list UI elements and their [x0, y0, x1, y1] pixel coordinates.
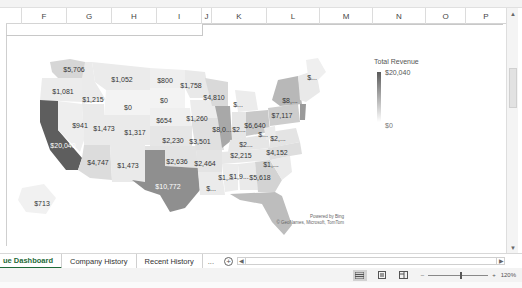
state-label-me: $... — [307, 74, 317, 81]
state-label-wy: $0 — [124, 104, 132, 111]
legend-min-value: $0 — [385, 122, 393, 129]
legend-gradient-bar — [377, 72, 381, 122]
state-label-sc: $1,... — [263, 161, 279, 168]
legend-max-value: $20,040 — [385, 69, 410, 76]
state-label-pa: $7,117 — [272, 112, 293, 119]
zoom-out-button[interactable]: – — [421, 272, 424, 278]
us-revenue-map-chart[interactable]: $5,706 $1,081 $20,040 $1,215 $941 $1,052… — [7, 24, 500, 246]
column-header-j[interactable]: J — [202, 8, 212, 24]
horizontal-scrollbar[interactable] — [237, 257, 505, 265]
column-header-row: F G H I J K L M N O P — [6, 8, 506, 24]
state-label-mn: $1,758 — [180, 82, 201, 89]
us-map-svg — [7, 24, 500, 246]
scroll-right-icon[interactable]: ▶ — [496, 257, 505, 265]
state-label-ar: $2,464 — [194, 160, 215, 167]
state-label-tn: $2,215 — [230, 152, 251, 159]
page-break-icon — [399, 271, 408, 279]
state-label-wa: $5,706 — [63, 66, 84, 73]
state-label-il: $8,0... — [212, 126, 231, 133]
state-label-nm: $1,473 — [117, 162, 138, 169]
normal-view-icon — [355, 272, 364, 279]
state-nj[interactable] — [300, 104, 306, 120]
state-label-wi: $4,810 — [203, 94, 224, 101]
column-header-g[interactable]: G — [67, 8, 112, 24]
zoom-control: – + 120% — [421, 272, 516, 278]
page-break-view-button[interactable] — [397, 270, 411, 281]
column-header-l[interactable]: L — [267, 8, 320, 24]
state-label-ok: $2,636 — [166, 158, 187, 165]
zoom-slider-thumb[interactable] — [460, 272, 462, 279]
vertical-scroll-thumb[interactable] — [509, 68, 517, 108]
sheet-tab-company-history[interactable]: Company History — [62, 254, 137, 269]
bottom-edge — [0, 282, 522, 288]
state-label-la: $... — [206, 185, 216, 192]
column-header-n[interactable]: N — [373, 8, 426, 24]
state-label-co: $1,317 — [124, 129, 145, 136]
zoom-slider[interactable] — [428, 275, 488, 276]
map-attribution: Powered by Bing © GeoNames, Microsoft, T… — [277, 214, 345, 226]
column-header-h[interactable]: H — [112, 8, 157, 24]
column-header-f[interactable]: F — [22, 8, 67, 24]
state-label-ca: $20,040 — [50, 142, 75, 149]
state-label-ga: $5,618 — [249, 174, 270, 181]
state-label-ny: $8,... — [282, 97, 298, 104]
zoom-level[interactable]: 120% — [501, 272, 516, 278]
column-header-o[interactable]: O — [426, 8, 466, 24]
state-label-al: $1,9... — [229, 173, 248, 180]
vertical-scrollbar[interactable]: ▲ ▼ — [506, 8, 518, 254]
state-label-or: $1,081 — [52, 88, 73, 95]
more-sheets-button[interactable]: ... — [203, 254, 219, 269]
sheet-tab-dashboard[interactable]: ue Dashboard — [0, 254, 62, 269]
scroll-down-icon[interactable]: ▼ — [509, 244, 517, 252]
state-label-tx: $10,772 — [155, 183, 180, 190]
column-header-blank[interactable] — [6, 8, 22, 24]
excel-window: F G H I J K L M N O P — [0, 0, 522, 288]
plus-circle-icon: + — [224, 257, 233, 266]
normal-view-button[interactable] — [353, 270, 367, 281]
state-label-nv: $941 — [72, 122, 88, 129]
state-label-ks: $2,230 — [162, 137, 183, 144]
state-label-id: $1,215 — [82, 96, 103, 103]
state-label-mt: $1,052 — [111, 76, 132, 83]
scroll-left-icon[interactable]: ◀ — [237, 257, 246, 265]
column-header-i[interactable]: I — [157, 8, 202, 24]
ribbon-edge — [0, 0, 522, 8]
state-label-az: $4,747 — [87, 159, 108, 166]
scroll-up-icon[interactable]: ▲ — [509, 10, 517, 18]
state-label-ky: $2... — [239, 141, 253, 148]
state-label-nd: $800 — [157, 77, 173, 84]
page-layout-icon — [378, 271, 386, 279]
state-wy[interactable] — [104, 90, 150, 115]
column-header-p[interactable]: P — [466, 8, 506, 24]
status-bar: – + 120% — [0, 268, 522, 282]
state-label-mo: $3,501 — [189, 138, 210, 145]
state-label-va: $2,... — [270, 135, 286, 142]
state-label-ne: $654 — [156, 117, 172, 124]
sheet-tab-recent-history[interactable]: Recent History — [137, 254, 203, 269]
legend-title: Total Revenue — [374, 58, 419, 65]
zoom-in-button[interactable]: + — [492, 272, 496, 278]
column-header-m[interactable]: M — [320, 8, 373, 24]
state-label-mi: $... — [233, 101, 243, 108]
state-label-sd: $0 — [160, 97, 168, 104]
attribution-line-2: © GeoNames, Microsoft, TomTom — [277, 220, 345, 226]
state-label-nc: $4,152 — [266, 149, 287, 156]
page-layout-view-button[interactable] — [375, 270, 389, 281]
state-label-ak: $713 — [34, 200, 50, 207]
add-sheet-button[interactable]: + — [219, 254, 238, 269]
state-label-wv: $... — [258, 131, 268, 138]
state-label-ia: $1,260 — [186, 115, 207, 122]
column-header-k[interactable]: K — [212, 8, 267, 24]
state-label-oh: $6,640 — [244, 122, 265, 129]
state-label-ut: $1,473 — [93, 125, 114, 132]
